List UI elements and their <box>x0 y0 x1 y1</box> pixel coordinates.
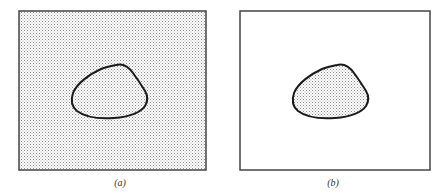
panel-a-background <box>19 11 206 170</box>
panel-b-caption: (b) <box>313 177 353 188</box>
panel-a <box>19 11 206 170</box>
panel-a-caption: (a) <box>100 177 140 188</box>
figure-canvas <box>0 0 445 195</box>
panel-b <box>240 11 430 170</box>
